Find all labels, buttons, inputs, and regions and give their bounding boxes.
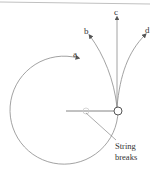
label-d: d [145,26,150,35]
trajectory-d [117,35,145,107]
label-c: c [114,8,118,17]
caption-line-1: String [115,141,137,152]
circular-path [10,56,118,164]
ball [114,107,122,115]
label-b: b [84,27,89,36]
caption-line-2: breaks [115,152,137,163]
trajectory-b [90,36,117,107]
label-a: a [73,50,77,59]
caption-pointer [86,113,116,140]
caption-string-breaks: String breaks [115,141,137,162]
top-rule [0,2,150,4]
circular-motion-diagram: a b c d String breaks [0,0,160,175]
